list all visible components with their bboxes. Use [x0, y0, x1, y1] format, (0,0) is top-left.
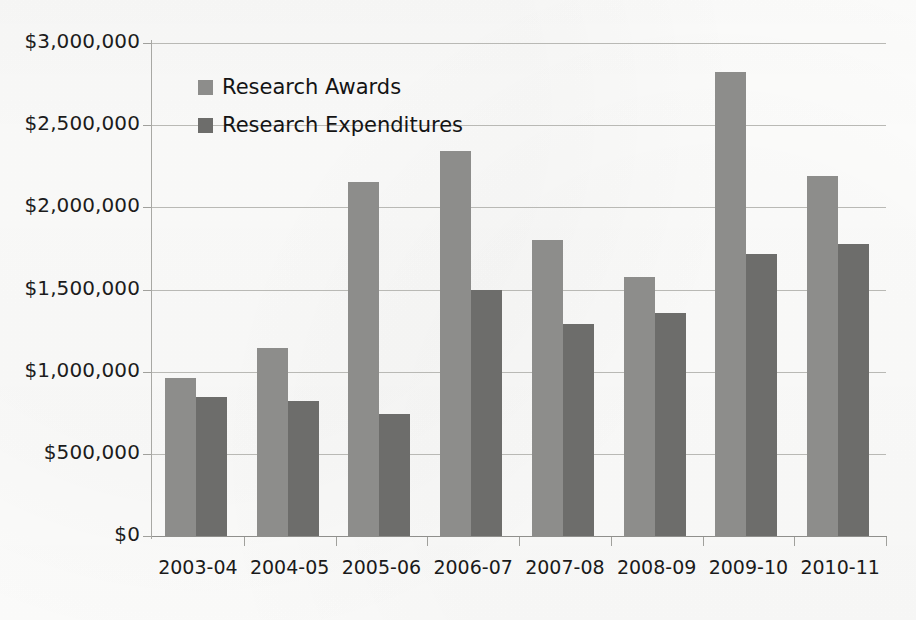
y-axis-tick-label: $2,000,000 [0, 193, 140, 217]
y-axis-tick-label: $0 [0, 522, 140, 546]
legend-label-research-expenditures: Research Expenditures [222, 113, 463, 137]
x-axis-tick-label-2006-07: 2006-07 [433, 556, 512, 578]
bar-research-expenditures-2010-11 [838, 244, 869, 537]
bar-research-awards-2007-08 [532, 240, 563, 536]
x-axis-tick-label-2004-05: 2004-05 [250, 556, 329, 578]
legend-item-research-expenditures: Research Expenditures [198, 106, 463, 144]
bar-research-awards-2006-07 [440, 151, 471, 536]
gridline [152, 43, 886, 44]
bar-research-awards-2009-10 [715, 72, 746, 536]
legend-item-research-awards: Research Awards [198, 68, 463, 106]
bar-research-expenditures-2008-09 [655, 313, 686, 536]
legend-swatch-icon-research-expenditures [198, 118, 213, 133]
bar-research-expenditures-2009-10 [746, 254, 777, 536]
x-axis-tick [703, 537, 704, 546]
bar-chart-figure: $0$500,000$1,000,000$1,500,000$2,000,000… [0, 0, 916, 620]
x-axis-tick [519, 537, 520, 546]
x-axis-tick-label-2005-06: 2005-06 [342, 556, 421, 578]
y-axis-tick-label: $2,500,000 [0, 111, 140, 135]
x-axis-tick-label-2008-09: 2008-09 [617, 556, 696, 578]
x-axis-tick-label-2009-10: 2009-10 [709, 556, 788, 578]
bar-research-awards-2005-06 [348, 182, 379, 536]
x-axis-tick [336, 537, 337, 546]
y-axis-tick-label: $500,000 [0, 440, 140, 464]
x-axis-tick [244, 537, 245, 546]
legend-label-research-awards: Research Awards [222, 75, 401, 99]
x-axis-tick [427, 537, 428, 546]
x-axis-tick [886, 537, 887, 546]
x-axis-tick-label-2003-04: 2003-04 [158, 556, 237, 578]
bar-research-expenditures-2003-04 [196, 397, 227, 536]
y-axis-tick-label: $1,000,000 [0, 358, 140, 382]
bar-research-awards-2004-05 [257, 348, 288, 536]
bar-research-expenditures-2004-05 [288, 401, 319, 536]
bar-research-expenditures-2006-07 [471, 290, 502, 537]
x-axis-tick-label-2010-11: 2010-11 [800, 556, 879, 578]
bar-research-awards-2003-04 [165, 378, 196, 536]
chart-legend: Research Awards Research Expenditures [198, 68, 463, 144]
y-axis-label-group: $0$500,000$1,000,000$1,500,000$2,000,000… [0, 0, 140, 620]
x-axis-tick [794, 537, 795, 546]
bar-research-expenditures-2005-06 [379, 414, 410, 536]
x-axis-tick [611, 537, 612, 546]
legend-swatch-icon-research-awards [198, 80, 213, 95]
x-axis-tick-label-2007-08: 2007-08 [525, 556, 604, 578]
gridline [152, 207, 886, 208]
bar-research-awards-2008-09 [624, 277, 655, 536]
bar-research-expenditures-2007-08 [563, 324, 594, 536]
y-axis-tick-label: $1,500,000 [0, 276, 140, 300]
bar-research-awards-2010-11 [807, 176, 838, 536]
y-axis-tick-label: $3,000,000 [0, 29, 140, 53]
